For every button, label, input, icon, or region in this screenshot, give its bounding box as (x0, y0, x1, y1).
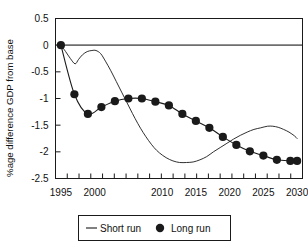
x-axis-tick-label: 2025 (252, 187, 275, 198)
x-axis-tick-label: 2010 (151, 187, 174, 198)
data-point-marker (259, 151, 267, 159)
x-axis-tick-label: 2000 (84, 187, 107, 198)
data-point-marker (151, 98, 159, 106)
data-point-marker (111, 97, 119, 105)
chart-legend: Short run Long run (79, 216, 231, 241)
y-axis-tick-label: -2.5 (31, 173, 49, 184)
y-axis-tick-label: -1.5 (31, 120, 49, 131)
data-point-marker (165, 101, 173, 109)
chart-figure: %age difference GDP from base 0.50-0.5-1… (0, 0, 308, 246)
data-point-marker (178, 110, 186, 118)
x-axis-tick-label: 1995 (50, 187, 73, 198)
y-axis-title-label: %age difference GDP from base (4, 39, 15, 177)
data-point-marker (192, 117, 200, 125)
y-axis-tick-label: 0.5 (35, 13, 49, 24)
gdp-difference-line-chart: %age difference GDP from base 0.50-0.5-1… (0, 0, 308, 246)
x-axis-tick-label: 2030 (286, 187, 308, 198)
legend-label-short-run: Short run (100, 223, 141, 234)
data-point-marker (57, 41, 65, 49)
data-point-marker (246, 147, 254, 155)
x-axis-tick-label: 2020 (218, 187, 241, 198)
y-axis-tick-label: -1 (40, 93, 49, 104)
data-point-marker (70, 90, 78, 98)
data-point-marker (138, 94, 146, 102)
data-point-marker (124, 94, 132, 102)
legend-label-long-run: Long run (171, 223, 210, 234)
data-point-marker (219, 133, 227, 141)
data-point-marker (84, 110, 92, 118)
data-point-marker (273, 156, 281, 164)
y-axis-title: %age difference GDP from base (4, 39, 15, 177)
data-point-marker (232, 141, 240, 149)
y-axis-tick-label: 0 (43, 40, 49, 51)
x-axis-tick-label: 2015 (185, 187, 208, 198)
data-point-marker (97, 103, 105, 111)
data-point-marker (293, 157, 301, 165)
data-point-marker (205, 124, 213, 132)
legend-circle-icon (156, 224, 164, 232)
y-axis-tick-label: -2 (40, 146, 49, 157)
y-axis-tick-label: -0.5 (31, 66, 49, 77)
